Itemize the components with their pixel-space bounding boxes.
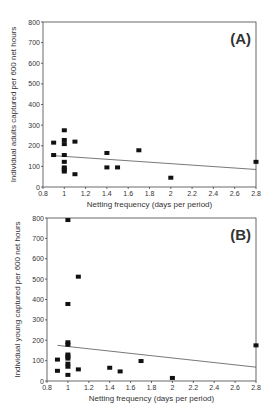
x-tick-label: 1 — [62, 190, 66, 197]
x-tick-label: 2.4 — [209, 384, 219, 391]
data-point — [104, 165, 109, 169]
y-tick-label: 200 — [32, 337, 44, 344]
data-point — [65, 343, 70, 347]
y-tick-label: 600 — [32, 255, 44, 262]
data-point — [65, 365, 70, 369]
x-tick-label: 1.6 — [123, 190, 133, 197]
y-tick-label: 400 — [28, 101, 40, 108]
data-point — [254, 343, 259, 347]
x-tick-label: 1 — [66, 384, 70, 391]
x-tick-label: 2.8 — [251, 384, 261, 391]
x-tick-label: 1.4 — [102, 190, 112, 197]
data-point — [65, 218, 70, 222]
panel-label: (B) — [230, 226, 251, 243]
y-tick-label: 500 — [28, 80, 40, 87]
data-point — [55, 358, 60, 362]
data-points — [51, 128, 258, 179]
data-point — [62, 138, 67, 142]
y-tick-label: 500 — [32, 276, 44, 283]
y-tick-label: 700 — [32, 235, 44, 242]
data-point — [107, 366, 112, 370]
data-point — [62, 153, 67, 157]
y-tick-label: 300 — [28, 122, 40, 129]
x-tick-label: 2.6 — [230, 384, 240, 391]
data-point — [76, 275, 81, 279]
x-tick-label: 1.2 — [81, 190, 91, 197]
data-point — [76, 367, 81, 371]
y-tick-label: 200 — [28, 142, 40, 149]
x-tick-label: 1.8 — [147, 384, 157, 391]
data-points — [55, 218, 259, 380]
panel-b: 01002003004005006007008000.811.21.41.61.… — [13, 215, 261, 404]
plot-frame — [47, 218, 256, 381]
data-point — [72, 140, 77, 144]
y-tick-label: 100 — [32, 357, 44, 364]
x-tick-label: 2.4 — [209, 190, 219, 197]
x-axis: 0.811.21.41.61.822.22.42.62.8 — [38, 187, 261, 197]
data-point — [65, 357, 70, 361]
x-tick-label: 2.8 — [251, 190, 261, 197]
y-axis: 0100200300400500600700800 — [28, 19, 43, 191]
y-tick-label: 600 — [28, 60, 40, 67]
x-tick-label: 2.2 — [188, 384, 198, 391]
data-point — [136, 148, 141, 152]
y-axis: 0100200300400500600700800 — [32, 215, 47, 385]
data-point — [62, 160, 67, 164]
panel-label: (A) — [230, 30, 251, 47]
data-point — [55, 369, 60, 373]
x-tick-label: 2 — [170, 384, 174, 391]
data-point — [254, 160, 259, 164]
data-point — [72, 172, 77, 176]
y-tick-label: 300 — [32, 316, 44, 323]
data-point — [104, 151, 109, 155]
x-tick-label: 2 — [169, 190, 173, 197]
data-point — [115, 165, 120, 169]
x-tick-label: 1.6 — [126, 384, 136, 391]
data-point — [51, 153, 56, 157]
data-point — [65, 373, 70, 377]
x-tick-label: 1.4 — [105, 384, 115, 391]
figure: 01002003004005006007008000.811.21.41.61.… — [0, 0, 274, 412]
data-point — [62, 142, 67, 146]
data-point — [118, 369, 123, 373]
data-point — [168, 176, 173, 180]
x-tick-label: 0.8 — [38, 190, 48, 197]
data-point — [51, 141, 56, 145]
y-tick-label: 800 — [32, 215, 44, 222]
panel-a: 01002003004005006007008000.811.21.41.61.… — [9, 19, 261, 210]
x-tick-label: 2.2 — [187, 190, 197, 197]
x-axis-label: Netting frequency (days per period) — [87, 200, 213, 209]
data-point — [170, 376, 175, 380]
x-tick-label: 1.8 — [145, 190, 155, 197]
y-tick-label: 400 — [32, 296, 44, 303]
x-axis-label: Netting frequency (days per period) — [89, 394, 215, 403]
data-point — [139, 359, 144, 363]
y-tick-label: 700 — [28, 39, 40, 46]
trend-line — [57, 345, 256, 367]
x-axis: 0.811.21.41.61.822.22.42.62.8 — [42, 381, 261, 391]
y-axis-label: Individual adults captured per 600 net h… — [9, 27, 18, 183]
trend-line — [54, 156, 256, 170]
data-point — [62, 170, 67, 174]
data-point — [62, 128, 67, 132]
x-tick-label: 2.6 — [230, 190, 240, 197]
y-tick-label: 800 — [28, 19, 40, 26]
x-tick-label: 1.2 — [84, 384, 94, 391]
y-axis-label: Individual young captured per 600 net ho… — [13, 221, 22, 377]
y-tick-label: 100 — [28, 163, 40, 170]
x-tick-label: 0.8 — [42, 384, 52, 391]
data-point — [65, 302, 70, 306]
